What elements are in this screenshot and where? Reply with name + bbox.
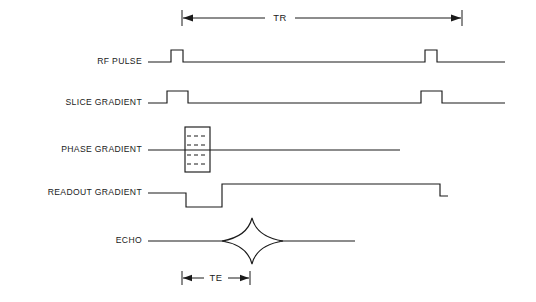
te-left-arrowhead (183, 275, 192, 282)
tr-right-arrowhead (451, 14, 461, 21)
te-right-arrowhead (240, 275, 249, 282)
readout-gradient-trace (148, 184, 448, 207)
row-label-echo: ECHO (116, 235, 142, 245)
tr-left-arrowhead (183, 14, 193, 21)
pulse-sequence-canvas: TR RF PULSE SLICE GRADIENT PHASE GRADIEN… (0, 0, 536, 302)
row-echo: ECHO (116, 218, 355, 264)
pulse-sequence-diagram: TR RF PULSE SLICE GRADIENT PHASE GRADIEN… (0, 0, 536, 302)
te-label: TE (210, 272, 223, 283)
tr-label: TR (273, 12, 287, 23)
row-label-phase-gradient: PHASE GRADIENT (61, 144, 142, 154)
te-interval-marker: TE (182, 271, 250, 285)
slice-gradient-trace (148, 91, 505, 103)
row-rf-pulse: RF PULSE (97, 50, 505, 66)
rf-pulse-trace (148, 50, 505, 62)
row-phase-gradient: PHASE GRADIENT (61, 127, 400, 172)
echo-envelope (222, 218, 283, 264)
row-readout-gradient: READOUT GRADIENT (48, 184, 448, 207)
row-label-slice-gradient: SLICE GRADIENT (65, 97, 142, 107)
row-slice-gradient: SLICE GRADIENT (65, 91, 505, 107)
tr-interval-marker: TR (182, 10, 462, 26)
row-label-rf-pulse: RF PULSE (97, 56, 142, 66)
row-label-readout-gradient: READOUT GRADIENT (48, 187, 143, 197)
